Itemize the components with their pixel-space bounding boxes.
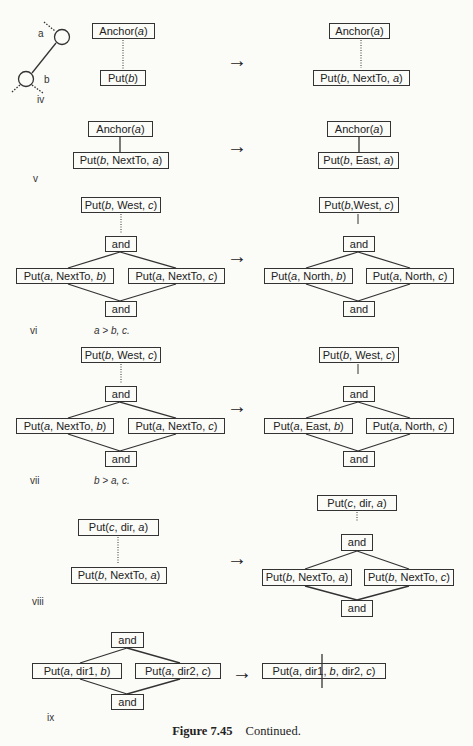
vii-after-left-box: Put(a, East, b) — [264, 418, 353, 434]
ix-before-and-top: and — [111, 632, 144, 648]
iv-after-top-box: Anchor(a) — [329, 23, 390, 39]
connector-lines — [0, 0, 473, 746]
vi-before-and-top: and — [105, 236, 137, 252]
viii-after-left-box: Put(b, NextTo, a) — [262, 569, 352, 586]
panel-label-v: v — [33, 173, 38, 184]
ix-after-merged-box: Put(a, dir1, b, dir2, c) — [262, 663, 386, 679]
panel-label-ix: ix — [47, 712, 54, 723]
viii-after-and-bottom: and — [341, 600, 373, 617]
v-before-top-box: Anchor(a) — [88, 121, 153, 137]
figure-7-45: a b iv Anchor(a) Put(b) → Anchor(a) Put(… — [0, 0, 473, 746]
vi-before-left-box: Put(a, NextTo, b) — [16, 268, 114, 284]
vii-after-and-top: and — [343, 386, 375, 402]
ix-before-left-box: Put(a, dir1, b) — [32, 663, 122, 679]
ix-before-right-box: Put(a, dir2, c) — [135, 663, 221, 679]
iv-after-bottom-box: Put(b, NextTo, a) — [313, 70, 410, 86]
vi-after-and-bottom: and — [343, 301, 375, 317]
vii-before-left-box: Put(a, NextTo, b) — [16, 418, 114, 434]
transform-arrow-icon: → — [227, 136, 247, 156]
node-b-circle — [19, 72, 34, 87]
ix-before-and-bottom: and — [111, 694, 144, 710]
vi-condition: a > b, c. — [94, 325, 130, 336]
viii-before-bottom-box: Put(b, NextTo, a) — [71, 567, 167, 584]
vii-before-and-bottom: and — [105, 451, 137, 467]
figure-caption: Figure 7.45 Continued. — [0, 724, 473, 739]
caption-number: Figure 7.45 — [172, 724, 232, 738]
caption-text: Continued. — [246, 724, 301, 738]
vi-after-left-box: Put(a, North, b) — [264, 268, 353, 284]
vi-after-and-top: and — [343, 236, 375, 252]
v-before-bottom-box: Put(b, NextTo, a) — [73, 152, 169, 169]
panel-label-vi: vi — [30, 325, 37, 336]
node-a-circle — [55, 30, 70, 45]
transform-arrow-icon: → — [232, 662, 252, 682]
transform-arrow-icon: → — [227, 548, 247, 568]
vii-before-and-top: and — [105, 386, 137, 402]
panel-label-viii: viii — [32, 596, 44, 607]
vii-condition: b > a, c. — [94, 475, 130, 486]
vii-before-right-box: Put(a, NextTo, c) — [128, 418, 225, 434]
transform-arrow-icon: → — [227, 50, 247, 70]
v-after-top-box: Anchor(a) — [327, 121, 391, 137]
vii-before-top-box: Put(b, West, c) — [81, 347, 161, 363]
vi-before-and-bottom: and — [105, 301, 137, 317]
iv-before-top-box: Anchor(a) — [92, 23, 155, 39]
transform-arrow-icon: → — [227, 246, 247, 266]
panel-label-vii: vii — [30, 475, 39, 486]
vii-after-and-bottom: and — [343, 451, 375, 467]
v-after-bottom-box: Put(b, East, a) — [318, 152, 399, 169]
viii-before-top-box: Put(c, dir, a) — [78, 519, 159, 536]
vi-after-right-box: Put(a, North, c) — [366, 268, 454, 284]
node-a-label: a — [38, 28, 44, 39]
iv-before-bottom-box: Put(b) — [100, 70, 146, 86]
panel-label-iv: iv — [37, 94, 44, 105]
vii-after-right-box: Put(a, North, c) — [366, 418, 454, 434]
vi-before-right-box: Put(a, NextTo, c) — [128, 268, 225, 284]
vi-before-top-box: Put(b, West, c) — [81, 197, 161, 213]
vii-after-top-box: Put(b, West, c) — [319, 347, 399, 363]
viii-after-right-box: Put(b, NextTo, c) — [364, 569, 454, 586]
transform-arrow-icon: → — [227, 396, 247, 416]
vi-after-top-box: Put(b,West, c) — [319, 197, 399, 213]
node-b-label: b — [44, 74, 50, 85]
viii-after-top-box: Put(c, dir, a) — [317, 495, 397, 511]
viii-after-and-top: and — [341, 534, 373, 551]
